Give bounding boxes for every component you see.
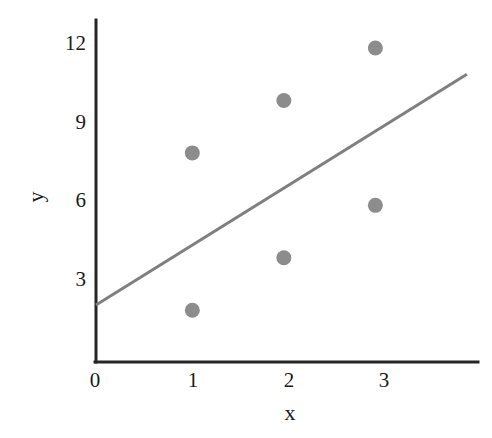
x-axis-title: x <box>285 402 296 424</box>
data-point <box>368 198 383 213</box>
data-point <box>276 250 291 265</box>
scatter-plot-figure: 0 1 2 3 3 6 9 12 x y <box>0 0 492 438</box>
y-tick-label-9: 9 <box>76 112 87 133</box>
data-point <box>185 145 200 160</box>
data-point <box>276 93 291 108</box>
x-tick-label-0: 0 <box>90 370 101 391</box>
x-tick-label-2: 2 <box>284 370 295 391</box>
data-point <box>185 303 200 318</box>
data-point <box>368 41 383 56</box>
data-point-group <box>185 41 383 318</box>
y-axis-title: y <box>25 192 47 203</box>
y-tick-label-6: 6 <box>76 190 87 211</box>
plot-canvas <box>0 0 492 438</box>
y-tick-label-12: 12 <box>65 33 86 54</box>
x-tick-label-1: 1 <box>188 370 199 391</box>
y-tick-label-3: 3 <box>76 269 87 290</box>
x-tick-label-3: 3 <box>379 370 390 391</box>
trend-line <box>96 74 467 305</box>
